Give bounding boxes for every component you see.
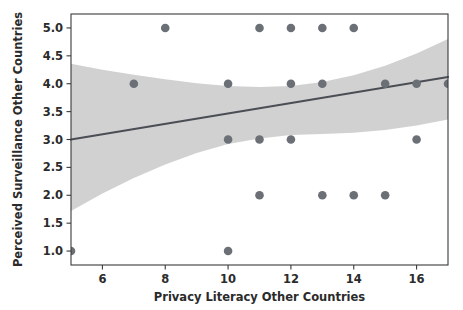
svg-text:12: 12 [283, 272, 299, 286]
y-axis-title: Perceived Surveillance Other Countries [11, 12, 25, 267]
regression-plot-figure: 6810121416 1.01.52.02.53.03.54.04.55.0 P… [0, 0, 463, 310]
svg-text:3.0: 3.0 [43, 133, 63, 147]
svg-text:2.5: 2.5 [43, 160, 63, 174]
svg-text:8: 8 [161, 272, 169, 286]
figure-background [0, 0, 463, 310]
x-axis-title: Privacy Literacy Other Countries [154, 290, 365, 304]
svg-text:3.5: 3.5 [43, 105, 63, 119]
svg-text:6: 6 [98, 272, 106, 286]
svg-text:5.0: 5.0 [43, 21, 63, 35]
svg-text:16: 16 [409, 272, 425, 286]
plot-canvas: 6810121416 1.01.52.02.53.03.54.04.55.0 P… [0, 0, 463, 310]
svg-text:2.0: 2.0 [43, 188, 63, 202]
svg-text:14: 14 [346, 272, 362, 286]
svg-text:10: 10 [220, 272, 236, 286]
svg-text:4.0: 4.0 [43, 77, 63, 91]
svg-text:1.0: 1.0 [43, 244, 63, 258]
svg-text:1.5: 1.5 [43, 216, 63, 230]
svg-text:4.5: 4.5 [43, 49, 63, 63]
